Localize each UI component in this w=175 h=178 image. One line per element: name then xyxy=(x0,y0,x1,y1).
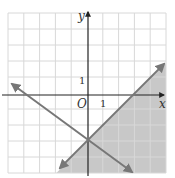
origin-label: O xyxy=(77,97,87,111)
coordinate-plane: y x O 1 1 xyxy=(0,0,175,178)
x-tick-label: 1 xyxy=(100,98,106,109)
x-axis-label: x xyxy=(159,97,166,111)
y-tick-label: 1 xyxy=(79,75,85,86)
y-axis-label: y xyxy=(77,9,85,23)
